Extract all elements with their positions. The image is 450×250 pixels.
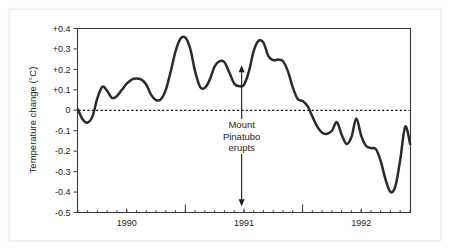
y-tick-label: -0.2 <box>55 146 71 156</box>
x-tick-label: 1990 <box>117 218 137 228</box>
figure-card: Temperature change (°C) +0.4+0.3+0.2+0.1… <box>0 0 450 250</box>
y-tick-label: +0.1 <box>53 85 71 95</box>
y-axis-tick-marks <box>74 29 78 213</box>
annotation-line-1: Mount <box>228 119 255 130</box>
y-tick-label: -0.1 <box>55 126 71 136</box>
mount-pinatubo-annotation: Mount Pinatubo erupts <box>223 65 261 206</box>
temperature-anomaly-chart: Temperature change (°C) +0.4+0.3+0.2+0.1… <box>0 0 450 250</box>
y-tick-label: +0.4 <box>53 24 71 34</box>
x-tick-label: 1991 <box>234 218 254 228</box>
x-axis-tick-labels: 199019911992 <box>117 218 372 228</box>
annotation-line-2: Pinatubo <box>223 131 261 142</box>
y-tick-label: -0.4 <box>55 187 71 197</box>
temperature-anomaly-line <box>78 37 410 193</box>
y-tick-label: 0 <box>65 105 70 115</box>
y-tick-label: +0.3 <box>53 44 71 54</box>
annotation-line-3: erupts <box>228 142 255 153</box>
x-axis-tick-marks <box>78 205 410 213</box>
y-axis-tick-labels: +0.4+0.3+0.2+0.10-0.1-0.2-0.3-0.4-0.5 <box>53 24 71 218</box>
annotation-arrowhead-up-icon <box>239 65 245 72</box>
x-tick-label: 1992 <box>351 218 371 228</box>
y-tick-label: +0.2 <box>53 65 71 75</box>
y-tick-label: -0.3 <box>55 167 71 177</box>
y-axis-title: Temperature change (°C) <box>27 67 38 174</box>
y-tick-label: -0.5 <box>55 208 71 218</box>
annotation-arrowhead-down-icon <box>239 199 245 206</box>
